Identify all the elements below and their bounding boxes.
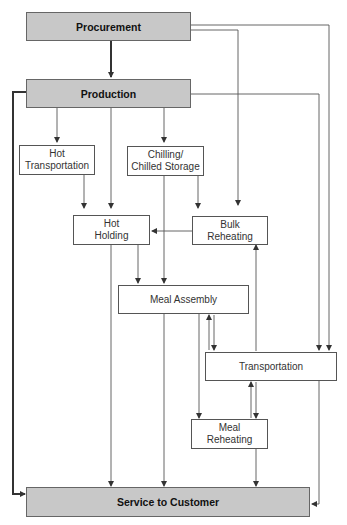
node-production-label: Production [81, 88, 136, 100]
node-transportation-label: Transportation [239, 361, 303, 373]
node-hot-transportation: Hot Transportation [19, 145, 95, 175]
node-bulk-reheating-label: Bulk Reheating [207, 219, 253, 243]
node-meal-assembly: Meal Assembly [118, 285, 249, 314]
node-procurement-label: Procurement [76, 21, 141, 33]
node-hot-transportation-label: Hot Transportation [25, 148, 89, 172]
node-service-to-customer-label: Service to Customer [117, 496, 219, 508]
node-bulk-reheating: Bulk Reheating [192, 216, 268, 245]
node-meal-assembly-label: Meal Assembly [150, 294, 217, 306]
node-chilling-storage-label: Chilling/ Chilled Storage [131, 149, 199, 173]
node-procurement: Procurement [26, 12, 191, 41]
node-production: Production [26, 79, 191, 108]
node-service-to-customer: Service to Customer [26, 487, 310, 517]
node-chilling-storage: Chilling/ Chilled Storage [127, 146, 204, 176]
node-hot-holding-label: Hot Holding [95, 218, 129, 242]
node-meal-reheating-label: Meal Reheating [207, 422, 253, 446]
node-transportation: Transportation [205, 352, 337, 381]
node-hot-holding: Hot Holding [73, 215, 150, 245]
node-meal-reheating: Meal Reheating [191, 419, 268, 449]
